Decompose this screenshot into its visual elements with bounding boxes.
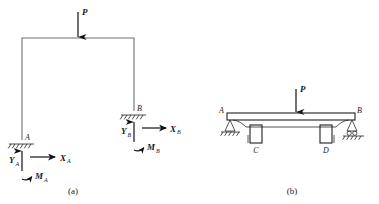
point-label-a: A: [24, 133, 30, 142]
load-p-label-b: P: [300, 84, 306, 94]
reaction-ma-label: M: [34, 171, 44, 181]
frame-members: [22, 38, 134, 140]
point-label-d: D: [322, 146, 329, 155]
moment-arc-icon-mb: [134, 148, 144, 151]
column-c-group: C: [248, 125, 262, 155]
roller-wheel-2: [353, 131, 357, 135]
panel-b: P C D: [218, 84, 364, 196]
panel-a: P A Y A: [8, 7, 181, 196]
load-p-group-a: P: [78, 7, 88, 37]
figure-root: P A Y A: [0, 0, 379, 204]
support-b-group: B Y B X B M B: [120, 104, 181, 154]
haunch-right: [332, 120, 349, 127]
caption-panel-b: (b): [287, 186, 298, 196]
fixed-support-hatch-icon-b: [120, 115, 146, 119]
fixed-support-hatch-icon: [8, 144, 34, 148]
portal-frame-outline: [22, 38, 134, 140]
column-d-group: D: [320, 125, 334, 155]
reaction-ma-subscript: A: [43, 177, 48, 183]
caption-panel-a: (a): [68, 186, 78, 196]
reaction-xb-subscript: B: [177, 129, 181, 135]
point-label-b-b: B: [357, 106, 362, 115]
haunch-left: [233, 120, 250, 127]
pin-triangle-a: [225, 120, 235, 131]
beam-body: [227, 113, 355, 120]
support-a-group: A Y A X A M A: [8, 133, 71, 183]
roller-support-icon-b: B: [343, 106, 364, 140]
load-p-group-b: P: [296, 84, 306, 112]
reaction-yb-subscript: B: [127, 132, 131, 138]
structural-diagram-svg: P A Y A: [0, 0, 379, 204]
point-label-b: B: [137, 104, 142, 113]
point-label-c: C: [253, 146, 259, 155]
reaction-mb-subscript: B: [156, 148, 160, 154]
roller-wheel-1: [347, 131, 351, 135]
reaction-ya-subscript: A: [14, 161, 19, 167]
column-icon-d: [320, 125, 332, 143]
reaction-xa-label: X: [59, 153, 67, 163]
reaction-xb-label: X: [169, 124, 177, 134]
reaction-xa-subscript: A: [66, 158, 71, 164]
point-label-a-b: A: [218, 106, 224, 115]
moment-arc-icon-ma: [22, 177, 32, 180]
column-icon-c: [250, 125, 262, 143]
beam-slab: [227, 113, 355, 120]
roller-triangle-b: [347, 120, 357, 131]
load-p-label-a: P: [82, 7, 88, 17]
reaction-mb-label: M: [146, 142, 156, 152]
